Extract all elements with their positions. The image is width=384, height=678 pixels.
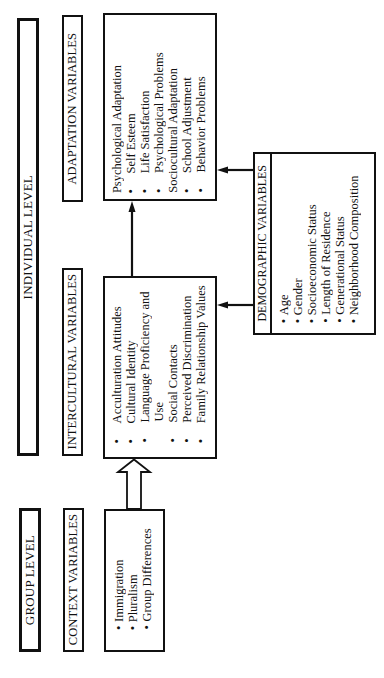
item-text: Cultural Identity	[124, 340, 138, 423]
bullet-icon: •	[124, 439, 138, 443]
demographic-variables-label: DEMOGRAPHIC VARIABLES	[255, 165, 270, 322]
bullet-icon: •	[180, 439, 194, 443]
list-item: • School Adjustment	[180, 77, 194, 193]
list-item: • Family Relationship Values	[194, 285, 208, 443]
arrow-context-to-intercultural	[118, 460, 150, 510]
list-item: Psychological Adaptation	[110, 65, 124, 193]
item-text: Acculturation Attitudes	[110, 306, 124, 423]
item-text: Gender	[291, 278, 305, 315]
item-text: Perceived Discrimination	[180, 295, 194, 422]
item-text: Self Esteem	[124, 113, 138, 173]
list-item: Use	[152, 402, 166, 443]
context-variables-label: CONTEXT VARIABLES	[66, 514, 81, 645]
list-item: • Gender	[291, 278, 305, 323]
item-text: Family Relationship Values	[194, 285, 208, 423]
item-text: Psychological Adaptation	[110, 65, 124, 193]
hollow-arrow-icon	[118, 460, 150, 510]
bullet-icon: •	[180, 189, 194, 193]
item-text: Length of Residence	[319, 211, 333, 314]
list-item: • Immigration	[112, 559, 126, 630]
arrowhead-icon	[129, 201, 136, 212]
bullet-icon: •	[319, 319, 333, 323]
bullet-icon: •	[112, 626, 126, 630]
list-item: • Social Contacts	[166, 344, 180, 443]
arrow-demographic-to-adaptation	[217, 167, 253, 174]
list-item: • Acculturation Attitudes	[110, 306, 124, 443]
bullet-icon: •	[138, 439, 152, 443]
arrow-demographic-to-intercultural	[217, 302, 253, 309]
item-text: School Adjustment	[180, 77, 194, 173]
list-item: • Group Differences	[140, 528, 154, 630]
list-item: • Life Satisfaction	[138, 90, 152, 193]
context-variables-box: • Immigration • Pluralism • Group Differ…	[104, 509, 165, 652]
intercultural-variables-box: • Acculturation Attitudes • Cultural Ide…	[103, 276, 217, 459]
arrow-intercultural-to-adaptation	[129, 201, 136, 276]
arrowhead-icon	[217, 167, 228, 174]
bullet-icon: •	[138, 189, 152, 193]
bullet-icon: •	[347, 319, 361, 323]
bullet-icon: •	[277, 319, 291, 323]
item-text: Psychological Problems	[152, 52, 166, 172]
list-item: • Language Proficiency and	[138, 291, 152, 443]
bullet-icon: •	[333, 319, 347, 323]
bullet-icon: •	[194, 189, 208, 193]
intercultural-variables-label: INTERCULTURAL VARIABLES	[65, 274, 80, 450]
list-item: • Age	[277, 294, 291, 323]
bullet-icon: •	[194, 439, 208, 443]
list-item: • Socioeconomic Status	[305, 204, 319, 323]
item-text: Neighborhood Composition	[347, 175, 361, 315]
item-text: Immigration	[112, 559, 126, 622]
item-text: Pluralism	[126, 574, 140, 622]
list-item: • Behavior Problems	[194, 76, 208, 193]
group-level-box: GROUP LEVEL	[19, 508, 41, 652]
list-item: • Neighborhood Composition	[347, 175, 361, 323]
list-item: • Generational Status	[333, 216, 347, 323]
demographic-variables-box: DEMOGRAPHIC VARIABLES • Age • Gender • S…	[253, 152, 376, 335]
item-text: Social Contacts	[166, 344, 180, 422]
item-text: Age	[277, 294, 291, 315]
list-item: • Pluralism	[126, 574, 140, 630]
bullet-icon: •	[166, 439, 180, 443]
bullet-icon: •	[126, 626, 140, 630]
adaptation-variables-label: ADAPTATION VARIABLES	[65, 33, 80, 185]
individual-level-title: INDIVIDUAL LEVEL	[20, 175, 36, 299]
individual-level-box: INDIVIDUAL LEVEL	[17, 18, 39, 456]
list-item: • Cultural Identity	[124, 340, 138, 443]
item-text: Behavior Problems	[194, 76, 208, 172]
intercultural-variables-label-box: INTERCULTURAL VARIABLES	[62, 268, 83, 456]
demographic-header: DEMOGRAPHIC VARIABLES	[255, 154, 272, 333]
item-text: Life Satisfaction	[138, 90, 152, 173]
item-text: Socioeconomic Status	[305, 204, 319, 315]
group-level-title: GROUP LEVEL	[22, 535, 38, 625]
list-item: Sociocultural Adaptation	[166, 68, 180, 193]
list-item: • Length of Residence	[319, 211, 333, 323]
bullet-icon: •	[291, 319, 305, 323]
context-variables-label-box: CONTEXT VARIABLES	[63, 508, 84, 652]
list-item: • Psychological Problems	[152, 52, 166, 193]
item-text: Use	[152, 402, 166, 421]
list-item: • Perceived Discrimination	[180, 295, 194, 443]
bullet-icon: •	[124, 189, 138, 193]
adaptation-variables-box: Psychological Adaptation • Self Esteem •…	[103, 13, 217, 201]
bullet-icon: •	[110, 439, 124, 443]
adaptation-variables-label-box: ADAPTATION VARIABLES	[62, 15, 83, 202]
bullet-icon: •	[305, 319, 319, 323]
item-text: Generational Status	[333, 216, 347, 314]
item-text: Sociocultural Adaptation	[166, 68, 180, 193]
list-item: • Self Esteem	[124, 113, 138, 193]
item-text: Language Proficiency and	[138, 291, 152, 422]
arrowhead-icon	[217, 302, 228, 309]
item-text: Group Differences	[140, 528, 154, 621]
bullet-icon: •	[140, 626, 154, 630]
bullet-icon: •	[152, 189, 166, 193]
